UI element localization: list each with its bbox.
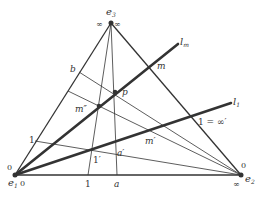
point-e2 [239, 173, 244, 178]
label-p: p [122, 87, 128, 97]
label-l-m: lm [180, 36, 189, 48]
projective-diagram: e3 ∞ ∞ e1 0 0 e2 0 ∞ lm l1 m p m″ m′ b 1… [0, 0, 262, 203]
label-e1-zero-bottom: 0 [20, 179, 25, 188]
label-m-double-prime: m″ [75, 104, 88, 114]
point-m-double-prime [97, 104, 102, 109]
side-e1-e3 [15, 23, 111, 175]
label-e1-zero-left: 0 [7, 163, 12, 172]
label-bottom-a: a [114, 179, 119, 189]
label-b: b [70, 64, 76, 74]
label-left-one: 1 [29, 135, 35, 145]
label-e2: e2 [245, 173, 255, 185]
label-m: m [157, 61, 166, 71]
label-e3: e3 [106, 6, 116, 18]
point-e3 [109, 21, 114, 26]
label-e2-zero: 0 [241, 161, 246, 170]
label-e3-inf-right: ∞ [114, 20, 121, 29]
label-l-1: l1 [233, 96, 240, 108]
label-one-eq-inf-prime: 1 = ∞′ [198, 117, 227, 127]
triangle [15, 23, 241, 175]
label-bottom-one: 1 [85, 179, 91, 189]
label-one-prime: 1′ [93, 155, 101, 165]
label-a-prime: a′ [117, 148, 124, 158]
label-e2-inf: ∞ [233, 180, 240, 189]
label-e3-inf-left: ∞ [96, 20, 103, 29]
point-p [113, 90, 118, 95]
points [13, 21, 244, 178]
line-l-1 [15, 103, 231, 175]
label-e1: e1 [8, 177, 18, 189]
label-m-prime: m′ [145, 136, 156, 146]
